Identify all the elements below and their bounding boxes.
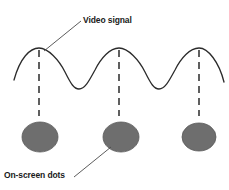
label-video-signal: Video signal	[83, 16, 132, 25]
on-screen-dot-3	[182, 123, 216, 151]
on-screen-dot-1	[22, 122, 58, 152]
diagram-canvas: Video signal On-screen dots	[0, 0, 229, 190]
diagram-svg	[0, 0, 229, 190]
leader-video-signal	[44, 21, 81, 51]
label-on-screen-dots: On-screen dots	[4, 171, 65, 180]
leader-onscreen-dots	[74, 147, 111, 177]
on-screen-dot-2	[103, 122, 139, 152]
